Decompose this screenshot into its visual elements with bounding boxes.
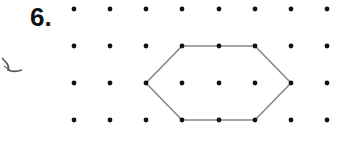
grid-dot [72,44,77,49]
grid-dot [289,81,294,86]
grid-dot [180,118,185,123]
grid-dot [180,81,185,86]
grid-dot [253,7,258,12]
grid-dot [144,44,149,49]
grid-dot [72,118,77,123]
grid-dot [180,44,185,49]
grid-dots [72,7,330,123]
grid-dot [108,7,113,12]
grid-dot [253,44,258,49]
grid-dot [108,118,113,123]
grid-dot [253,81,258,86]
grid-dot [325,81,330,86]
grid-dot [325,7,330,12]
grid-dot [108,44,113,49]
grid-dot [289,44,294,49]
grid-dot [217,81,222,86]
grid-dot [289,118,294,123]
grid-dot [144,118,149,123]
grid-dot [217,7,222,12]
grid-dot [144,7,149,12]
grid-dot [108,81,113,86]
grid-dot [217,118,222,123]
grid-dot [289,7,294,12]
dot-grid [0,0,344,153]
grid-dot [253,118,258,123]
grid-dot [72,81,77,86]
grid-dot [325,118,330,123]
pencil-scribble-mark [2,58,22,72]
grid-dot [325,44,330,49]
grid-dot [180,7,185,12]
grid-dot [144,81,149,86]
grid-dot [217,44,222,49]
grid-dot [72,7,77,12]
